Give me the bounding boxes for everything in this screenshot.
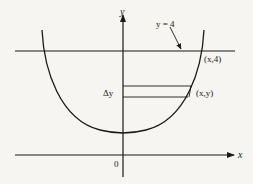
intersection-point-label: (x,4): [204, 54, 221, 64]
x-axis-label: x: [237, 149, 243, 160]
origin-label: 0: [114, 159, 119, 169]
curve-point-label: (x,y): [196, 88, 213, 98]
y-axis-label: y: [119, 6, 125, 17]
diagram-svg: y x 0 y = 4 (x,4) Δy (x,y): [0, 0, 253, 184]
label-pointer-arrow: [170, 27, 181, 49]
diagram-canvas: y x 0 y = 4 (x,4) Δy (x,y): [0, 0, 253, 184]
delta-y-label: Δy: [103, 88, 114, 98]
line-label: y = 4: [156, 19, 175, 29]
